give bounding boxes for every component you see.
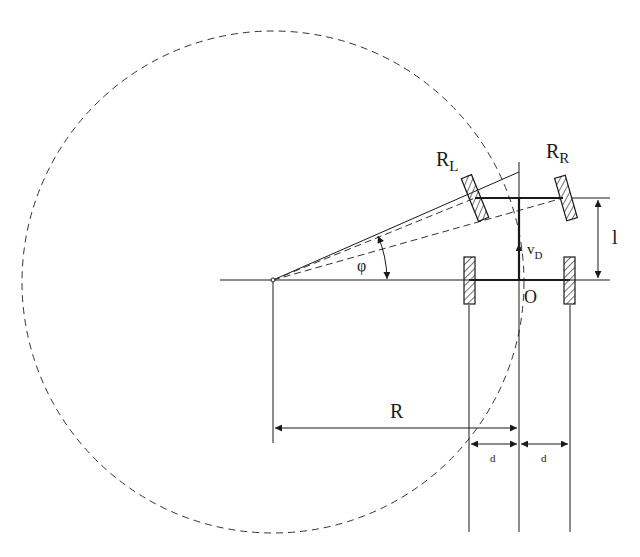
rear-left-wheel (464, 257, 475, 304)
label-half-track-left: d (490, 452, 496, 464)
label-angle: φ (357, 257, 366, 275)
rear-right-wheel (564, 257, 575, 304)
ray-to-left-wheel (273, 198, 475, 280)
label-left-wheel: RL (436, 148, 459, 174)
ray-to-center (273, 172, 519, 280)
label-velocity: vD (527, 241, 543, 261)
label-right-wheel: RR (546, 140, 569, 166)
label-radius: R (390, 400, 404, 422)
label-half-track-right: d (541, 452, 547, 464)
instantaneous-center-point (271, 278, 275, 282)
label-origin: O (524, 287, 537, 307)
label-wheelbase: l (612, 226, 618, 248)
steering-geometry-diagram: RL RR l vD O φ R d d (0, 0, 640, 557)
angle-arc (378, 236, 387, 279)
